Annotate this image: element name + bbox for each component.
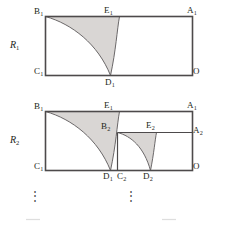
stage-two-group bbox=[46, 112, 193, 171]
vertex-label-A2-stage2: A2 bbox=[193, 126, 203, 135]
vertex-label-B2-stage2: B2 bbox=[101, 122, 110, 131]
figure-container: R1 R2 B1 E1 A1 C1 D1 O B1 E1 A1 B2 E2 A2… bbox=[0, 0, 230, 225]
stage-two-shaded-region-small bbox=[118, 133, 157, 171]
vertex-label-D2-stage2: D2 bbox=[143, 172, 153, 181]
vertex-label-D1-stage1: D1 bbox=[105, 78, 115, 87]
vertex-label-E1-stage2: E1 bbox=[104, 101, 113, 110]
vertex-label-B1-stage2: B1 bbox=[34, 102, 43, 111]
vertical-ellipsis-left: ⋮ bbox=[29, 190, 41, 202]
stage-label-R2: R2 bbox=[10, 135, 19, 145]
vertex-label-B1-stage1: B1 bbox=[34, 7, 43, 16]
vertical-ellipsis-right: ⋮ bbox=[125, 190, 137, 202]
stage-one-group bbox=[46, 17, 193, 76]
vertex-label-C1-stage1: C1 bbox=[34, 67, 43, 76]
vertex-label-A1-stage1: A1 bbox=[187, 6, 197, 15]
stage-two-shaded-region-large bbox=[46, 112, 120, 171]
vertex-label-C2-stage2: C2 bbox=[117, 172, 126, 181]
vertex-label-E1-stage1: E1 bbox=[104, 6, 113, 15]
vertex-label-E2-stage2: E2 bbox=[146, 121, 155, 130]
vertex-label-D1-stage2: D1 bbox=[103, 172, 113, 181]
vertex-label-A1-stage2: A1 bbox=[187, 101, 197, 110]
stage-label-R1: R1 bbox=[10, 40, 19, 50]
vertex-label-O-stage2: O bbox=[193, 162, 200, 171]
vertex-label-C1-stage2: C1 bbox=[34, 162, 43, 171]
stage-one-shaded-region bbox=[46, 17, 120, 76]
vertex-label-O-stage1: O bbox=[193, 67, 200, 76]
